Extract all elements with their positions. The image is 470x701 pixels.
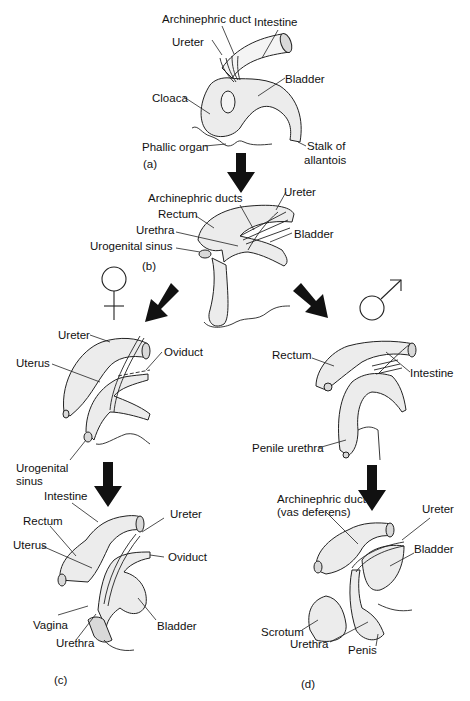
svg-text:(vas deferens): (vas deferens)	[277, 506, 351, 518]
label-rectum-b: Rectum	[158, 208, 198, 220]
label-ureter: Ureter	[172, 36, 204, 48]
cloaca-development-diagram: Archinephric duct Intestine Ureter Bladd…	[0, 0, 470, 701]
male-symbol-icon	[360, 280, 401, 320]
label-urogenital-sinus-b: Urogenital sinus	[90, 240, 173, 252]
panel-b: Archinephric ducts Ureter Rectum Urethra…	[90, 186, 334, 327]
label-ureter-f: Ureter	[58, 329, 90, 341]
label-oviduct-c: Oviduct	[168, 551, 208, 563]
label-archinephric-ducts: Archinephric ducts	[148, 192, 243, 204]
label-intestine-c: Intestine	[44, 490, 87, 502]
label-bladder: Bladder	[285, 73, 325, 85]
bladder-shape-c	[98, 552, 150, 628]
label-urethra-b: Urethra	[136, 224, 175, 236]
cloaca-shape	[201, 78, 301, 142]
label-ureter-b: Ureter	[284, 186, 316, 198]
label-bladder-c: Bladder	[157, 620, 197, 632]
panel-tag-d: (d)	[301, 678, 315, 690]
arrow-down-icon	[227, 153, 255, 193]
label-rectum-c: Rectum	[23, 515, 63, 527]
panel-tag-c: (c)	[54, 674, 68, 686]
label-urogenital-sinus-f: Urogenital	[16, 462, 68, 474]
svg-text:allantois: allantois	[304, 154, 346, 166]
panel-tag-b: (b)	[142, 260, 156, 272]
label-ureter-d: Ureter	[422, 503, 454, 515]
label-cloaca: Cloaca	[152, 92, 188, 104]
label-archinephric-duct-d: Archinephric duct	[277, 493, 367, 505]
arrow-down-icon	[94, 462, 122, 507]
intestine-rectum-shape-c	[60, 516, 142, 582]
female-symbol-icon	[102, 267, 126, 320]
arrow-down-right-icon	[293, 283, 328, 318]
label-intestine: Intestine	[254, 16, 297, 28]
panel-c: Intestine Rectum Uterus Ureter Oviduct V…	[13, 490, 208, 686]
label-ureter-c: Ureter	[170, 508, 202, 520]
panel-a: Archinephric duct Intestine Ureter Bladd…	[142, 13, 346, 170]
urogenital-sinus-shape	[209, 258, 228, 326]
label-uterus-c: Uterus	[13, 539, 47, 551]
label-penis-d: Penis	[348, 644, 377, 656]
label-urethra-d: Urethra	[290, 638, 329, 650]
label-uterus-f: Uterus	[16, 357, 50, 369]
label-bladder-d: Bladder	[414, 543, 454, 555]
panel-male-intermediate: Rectum Intestine Penile urethra	[252, 341, 453, 460]
label-urethra-c: Urethra	[56, 637, 95, 649]
label-bladder-b: Bladder	[294, 228, 334, 240]
arrow-down-left-icon	[145, 283, 179, 322]
panel-tag-a: (a)	[143, 158, 157, 170]
panel-d: Archinephric duct (vas deferens) Ureter …	[261, 493, 454, 690]
label-archinephric-duct: Archinephric duct	[162, 13, 252, 25]
label-scrotum-d: Scrotum	[261, 626, 304, 638]
scrotum-shape-d	[309, 596, 346, 641]
label-rectum-m: Rectum	[272, 349, 312, 361]
rectum-shape	[198, 205, 294, 266]
label-intestine-m: Intestine	[410, 367, 453, 379]
label-penile-urethra-m: Penile urethra	[252, 442, 324, 454]
label-vagina-c: Vagina	[33, 619, 69, 631]
svg-text:sinus: sinus	[16, 475, 43, 487]
label-stalk-of-allantois: Stalk of	[307, 140, 346, 152]
label-oviduct-f: Oviduct	[164, 346, 204, 358]
penile-urethra-shape-m	[339, 374, 407, 456]
label-phallic-organ: Phallic organ	[142, 141, 208, 153]
